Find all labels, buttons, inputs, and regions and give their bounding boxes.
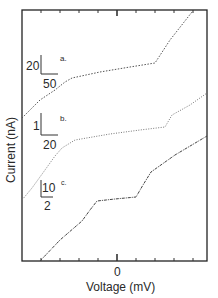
y-axis-label: Current (nA) xyxy=(4,117,18,183)
top-ticks xyxy=(41,10,193,16)
curve-label-c: c. xyxy=(61,179,67,186)
bottom-ticks xyxy=(41,254,193,261)
scale-a-x: 50 xyxy=(43,77,57,91)
scale-c-y: 10 xyxy=(42,181,56,195)
scale-b-y: 1 xyxy=(33,119,40,133)
curve-label-b: b. xyxy=(60,114,67,123)
scale-c-x: 2 xyxy=(44,199,51,213)
curve-a xyxy=(22,12,192,118)
x-tick-zero: 0 xyxy=(114,265,121,279)
curve-c xyxy=(40,136,207,261)
x-axis-label: Voltage (mV) xyxy=(86,280,155,294)
scale-a-y: 20 xyxy=(26,59,40,73)
curve-label-a: a. xyxy=(60,54,67,63)
iv-chart: 20 50 a. 1 20 b. 10 2 c. 0 Voltage (mV) … xyxy=(0,0,218,298)
scale-b-x: 20 xyxy=(43,138,57,152)
